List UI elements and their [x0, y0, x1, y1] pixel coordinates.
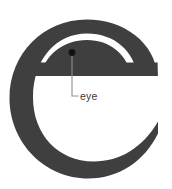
letter-e-illustration: eye	[0, 0, 172, 189]
glyph-e-crossbar	[31, 63, 158, 77]
annotation-label-eye: eye	[80, 90, 98, 102]
annotation-dot-marker	[69, 49, 76, 56]
typography-diagram: eye	[0, 0, 172, 189]
